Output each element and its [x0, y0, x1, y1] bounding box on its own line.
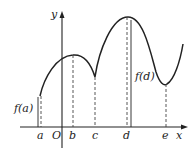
fd-label: f(d) [134, 70, 155, 83]
tick-label-d: d [123, 129, 130, 142]
tick-label-c: c [92, 129, 98, 142]
y-axis-arrow [60, 11, 65, 18]
tick-label-b: b [69, 129, 76, 142]
tick-label-a: a [37, 129, 44, 142]
function-graph: y x O a b c d e f(a) f(d) [0, 0, 194, 154]
tick-label-e: e [162, 129, 169, 142]
origin-label: O [52, 129, 61, 142]
y-axis-label: y [50, 8, 58, 21]
fa-label: f(a) [13, 102, 33, 115]
x-axis-label: x [176, 129, 183, 142]
